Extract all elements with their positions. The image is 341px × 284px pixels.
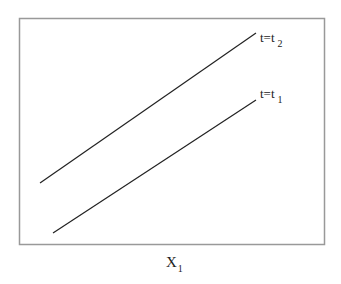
label-t2: t=t2 [260, 30, 283, 49]
plot-frame [20, 19, 325, 245]
line-t2 [40, 33, 256, 183]
line-t1 [53, 100, 256, 233]
x-axis-label: X1 [166, 254, 183, 274]
label-t1: t=t1 [260, 86, 283, 105]
diagram-canvas: t=t2 t=t1 X1 [0, 0, 341, 284]
